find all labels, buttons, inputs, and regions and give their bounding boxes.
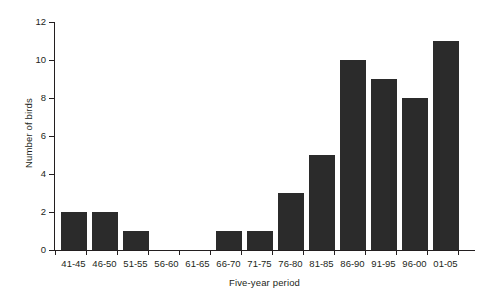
x-axis-tick bbox=[117, 251, 118, 255]
y-axis-tick-label: 0 bbox=[2, 245, 46, 255]
x-axis-tick bbox=[241, 251, 242, 255]
bar bbox=[278, 193, 304, 250]
x-axis-tick bbox=[272, 251, 273, 255]
x-axis-tick bbox=[86, 251, 87, 255]
x-axis-tick bbox=[303, 251, 304, 255]
y-axis-tick-label: 8 bbox=[2, 93, 46, 103]
bar bbox=[371, 79, 397, 250]
y-axis-tick-label-wrap: 0 bbox=[0, 245, 46, 255]
x-axis-tick bbox=[179, 251, 180, 255]
bar bbox=[216, 231, 242, 250]
bar bbox=[92, 212, 118, 250]
plot-area bbox=[54, 22, 475, 250]
x-axis-tick bbox=[396, 251, 397, 255]
x-axis-tick bbox=[365, 251, 366, 255]
y-axis-tick-label-wrap: 8 bbox=[0, 93, 46, 103]
bar bbox=[247, 231, 273, 250]
x-axis-tick bbox=[334, 251, 335, 255]
y-axis-tick-label-wrap: 12 bbox=[0, 17, 46, 27]
y-axis-tick-label: 4 bbox=[2, 169, 46, 179]
bar-chart: Number of birds 024681012 41-4546-5051-5… bbox=[0, 0, 483, 308]
bar bbox=[309, 155, 335, 250]
x-axis-tick bbox=[210, 251, 211, 255]
bar bbox=[340, 60, 366, 250]
y-axis-tick-label: 12 bbox=[2, 17, 46, 27]
bar bbox=[123, 231, 149, 250]
y-axis-tick-label: 10 bbox=[2, 55, 46, 65]
x-axis-tick bbox=[148, 251, 149, 255]
bar bbox=[402, 98, 428, 250]
y-axis-tick-label-wrap: 2 bbox=[0, 207, 46, 217]
y-axis-tick bbox=[49, 250, 54, 251]
x-axis-tick bbox=[55, 251, 56, 255]
y-axis-tick-label: 6 bbox=[2, 131, 46, 141]
x-axis-tick-label: 01-05 bbox=[427, 258, 464, 270]
y-axis-tick-label: 2 bbox=[2, 207, 46, 217]
x-axis-tick bbox=[458, 251, 459, 255]
x-axis-title: Five-year period bbox=[54, 277, 475, 289]
y-axis-tick-label-wrap: 6 bbox=[0, 131, 46, 141]
bar bbox=[61, 212, 87, 250]
y-axis-tick-label-wrap: 4 bbox=[0, 169, 46, 179]
bar bbox=[433, 41, 459, 250]
y-axis-tick-label-wrap: 10 bbox=[0, 55, 46, 65]
x-axis-tick bbox=[427, 251, 428, 255]
